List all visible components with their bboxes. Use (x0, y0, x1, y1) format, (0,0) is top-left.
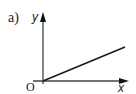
part-label: a) (8, 10, 19, 26)
origin-label: O (26, 80, 35, 94)
x-axis-label: x (117, 81, 125, 94)
function-line (43, 47, 125, 81)
graph-diagram: a) y O x (0, 0, 136, 94)
y-axis-arrow-icon (40, 12, 46, 22)
y-axis-label: y (31, 10, 39, 24)
